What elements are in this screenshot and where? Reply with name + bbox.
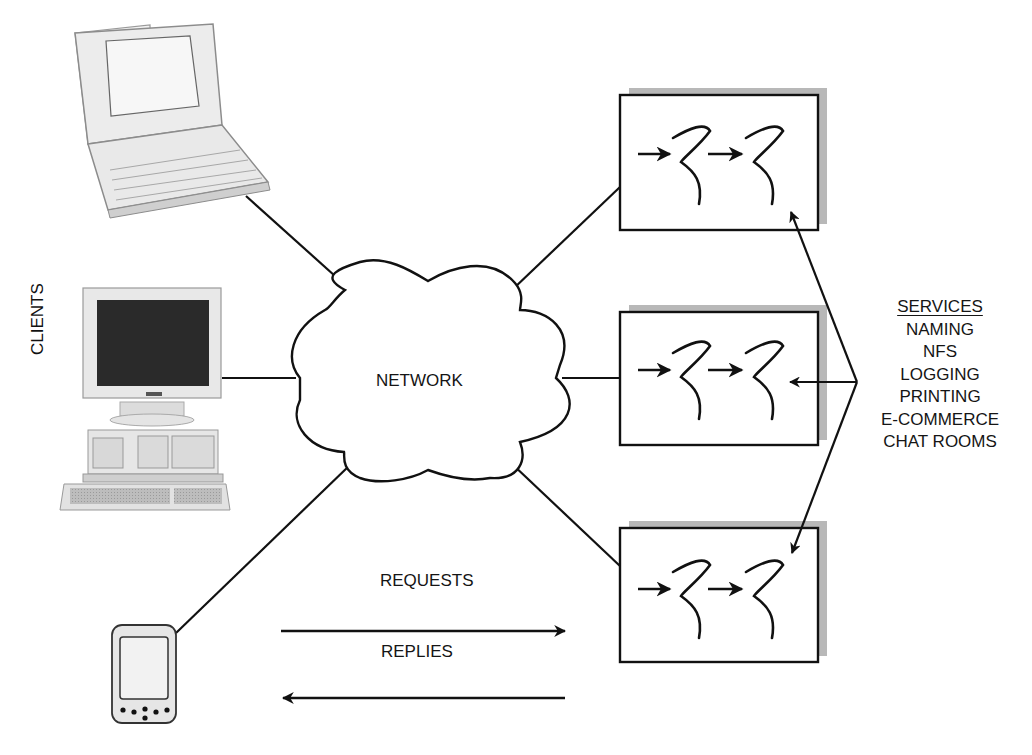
service-item: NAMING — [860, 319, 1020, 342]
requests-label: REQUESTS — [380, 571, 474, 591]
link-laptop — [246, 196, 345, 285]
pda-icon — [112, 625, 176, 723]
link-server-bottom — [510, 462, 620, 566]
service-item: PRINTING — [860, 386, 1020, 409]
service-arrows — [790, 212, 857, 553]
replies-label: REPLIES — [381, 642, 453, 662]
service-item: E-COMMERCE — [860, 409, 1020, 432]
service-item: CHAT ROOMS — [860, 431, 1020, 454]
clients-label: CLIENTS — [28, 283, 48, 355]
desktop-icon — [60, 288, 230, 510]
service-item: LOGGING — [860, 364, 1020, 387]
laptop-icon — [75, 24, 270, 218]
link-server-top — [512, 187, 620, 290]
network-label: NETWORK — [376, 371, 463, 391]
service-item: NFS — [860, 341, 1020, 364]
services-list: SERVICES NAMING NFS LOGGING PRINTING E-C… — [860, 296, 1020, 454]
server-top — [620, 88, 827, 230]
services-heading: SERVICES — [860, 296, 1020, 319]
server-middle — [620, 305, 827, 445]
